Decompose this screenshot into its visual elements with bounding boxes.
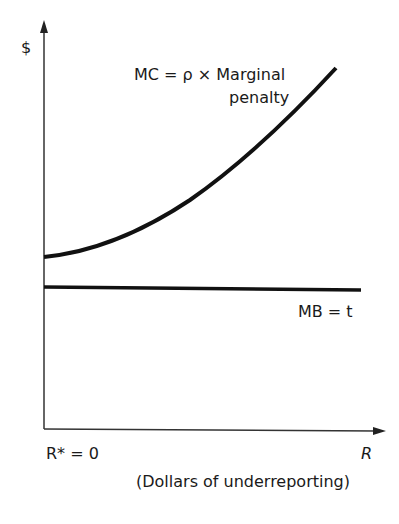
x-axis [44, 429, 376, 431]
mc-label-text: MC = ρ × Marginal [134, 65, 285, 84]
mb-line [44, 287, 361, 290]
x-axis-arrow-icon [373, 427, 386, 435]
mc-curve [44, 68, 336, 257]
mc-label-line2: penalty [229, 90, 289, 106]
x-axis-label: R [361, 446, 372, 462]
y-axis-arrow-icon [40, 20, 48, 33]
x-axis-note: (Dollars of underreporting) [136, 474, 350, 490]
origin-label: R* = 0 [46, 446, 99, 462]
y-axis-label: $ [21, 40, 31, 56]
mb-label: MB = t [298, 304, 353, 320]
mc-label-line1: MC = ρ × Marginal [134, 67, 285, 83]
